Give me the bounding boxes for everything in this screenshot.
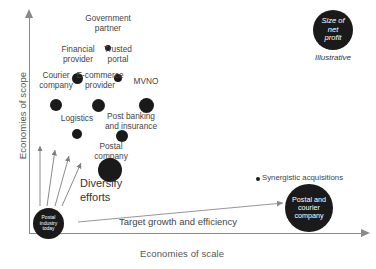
bubble-postal-and-courier-company-text: Postal and courier company: [292, 196, 326, 220]
y-axis-arrowhead-icon: [25, 9, 33, 18]
label-trusted-portal: Trusted portal: [90, 45, 146, 65]
bubble-synergistic-acquisitions[interactable]: [256, 177, 260, 181]
bubble-postal-and-courier-company[interactable]: Postal and courier company: [285, 184, 333, 232]
legend-caption: Illustrative: [313, 53, 353, 62]
x-axis-line: [29, 233, 365, 234]
bubble-postal-industry-today[interactable]: Postal industry today: [33, 208, 64, 239]
legend-size-bubble-text: Size of net profit: [321, 17, 344, 43]
y-axis-line: [29, 17, 30, 234]
legend-size-bubble: Size of net profit: [313, 10, 353, 50]
x-axis-arrowhead-icon: [361, 229, 370, 237]
bubble-ecommerce-provider[interactable]: [92, 99, 105, 112]
x-axis-label: Economies of scale: [140, 248, 224, 259]
annotation-target-growth: Target growth and efficiency: [119, 216, 237, 227]
diversify-arrows: [40, 146, 81, 206]
label-mvno: MVNO: [126, 77, 166, 87]
chart-canvas: Economies of scope Economies of scale Go…: [0, 0, 376, 269]
label-synergistic-acquisitions: Synergistic acquisitions: [262, 173, 372, 182]
label-post-banking: Post banking and insurance: [95, 112, 167, 132]
annotation-diversify-efforts: Diversify efforts: [80, 177, 122, 205]
label-ecommerce-provider: E-commerce provider: [68, 71, 132, 91]
label-government-partner: Government partner: [73, 14, 143, 34]
bubble-logistics[interactable]: [72, 129, 82, 139]
bubble-postal-industry-today-text: Postal industry today: [40, 215, 58, 232]
bubble-courier-company[interactable]: [50, 99, 62, 111]
